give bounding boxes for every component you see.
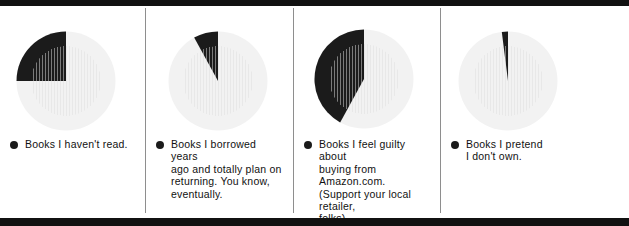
pie-chart-3-svg [314, 29, 414, 129]
legend-2: Books I borrowed years ago and totally p… [146, 138, 294, 200]
pie-panel-1: Books I haven't read. [0, 6, 146, 218]
filled-circle-icon [156, 141, 164, 149]
filled-circle-icon [451, 141, 459, 149]
pie-chart-2 [168, 31, 268, 131]
bottom-rule [0, 218, 629, 226]
legend-label-4: Books I pretend I don't own. [466, 138, 543, 163]
pie-chart-1-wrap [0, 25, 146, 133]
legend-1: Books I haven't read. [0, 138, 146, 150]
filled-circle-icon [304, 141, 312, 149]
pie-chart-2-wrap [146, 25, 294, 133]
filled-circle-icon [10, 141, 18, 149]
legend-label-1: Books I haven't read. [25, 138, 128, 150]
figure-canvas: Books I haven't read. Books I borrowed y… [0, 0, 629, 226]
pie-panel-3: Books I feel guilty about buying from Am… [294, 6, 441, 218]
pie-chart-2-svg [168, 31, 268, 131]
pie-panel-4: Books I pretend I don't own. [441, 6, 629, 218]
pie-panel-row: Books I haven't read. Books I borrowed y… [0, 6, 629, 218]
pie-chart-3 [314, 29, 414, 129]
legend-label-3: Books I feel guilty about buying from Am… [319, 138, 432, 225]
pie-chart-1 [16, 31, 116, 131]
legend-4: Books I pretend I don't own. [441, 138, 629, 163]
pie-chart-3-wrap [294, 25, 441, 133]
legend-3: Books I feel guilty about buying from Am… [294, 138, 441, 225]
pie-highlight-slice-1 [17, 32, 67, 82]
pie-chart-1-svg [16, 31, 116, 131]
pie-chart-4 [458, 31, 558, 131]
pie-chart-4-svg [458, 31, 558, 131]
legend-label-2: Books I borrowed years ago and totally p… [171, 138, 284, 200]
pie-chart-4-wrap [441, 25, 629, 133]
pie-panel-2: Books I borrowed years ago and totally p… [146, 6, 294, 218]
